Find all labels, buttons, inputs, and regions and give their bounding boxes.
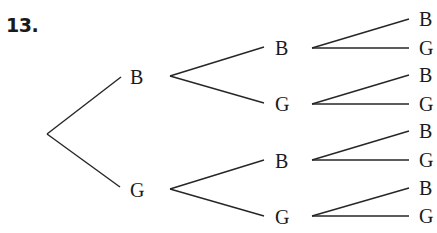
leaf-gbg: G <box>419 149 433 171</box>
leaf-bgb: B <box>419 64 432 86</box>
leaf-ggg: G <box>419 205 433 227</box>
level1-node-b: B <box>130 66 143 88</box>
leaf-bbg: G <box>419 37 433 59</box>
leaf-bgg: G <box>419 93 433 115</box>
level2-node-gb: B <box>275 150 288 172</box>
leaf-gbb: B <box>419 120 432 142</box>
level2-node-bb: B <box>275 37 288 59</box>
level1-node-g: G <box>130 179 144 201</box>
level2-node-bg: G <box>275 93 289 115</box>
leaf-ggb: B <box>419 177 432 199</box>
level2-branches <box>312 19 409 216</box>
level1-branches <box>170 47 264 216</box>
root-branches <box>47 77 121 187</box>
tree-diagram: B G B G B G B G B G B G B G <box>0 0 437 233</box>
leaf-bbb: B <box>419 8 432 30</box>
level2-node-gg: G <box>275 206 289 228</box>
